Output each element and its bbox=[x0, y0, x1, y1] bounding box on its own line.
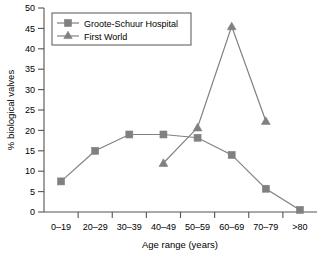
y-tick-label: 15 bbox=[25, 146, 35, 156]
x-tick-label: 40–49 bbox=[151, 222, 176, 232]
x-axis-tick-labels: 0–1920–2930–3940–4950–5960–6970–79>80 bbox=[51, 222, 308, 232]
data-point-square-marker bbox=[126, 131, 133, 138]
y-tick-label: 35 bbox=[25, 64, 35, 74]
data-point-square-marker bbox=[262, 185, 269, 192]
line-chart: 0 5 10 15 20 25 30 35 40 45 50 0–1920–29… bbox=[0, 0, 327, 253]
x-tick-label: 60–69 bbox=[219, 222, 244, 232]
legend-label-first-world: First World bbox=[84, 32, 127, 42]
data-point-square-marker bbox=[194, 134, 201, 141]
legend: Groote-Schuur Hospital First World bbox=[52, 13, 191, 45]
x-tick-label: 20–29 bbox=[83, 222, 108, 232]
series-groote-schuur-hospital bbox=[58, 131, 304, 213]
series-layer bbox=[58, 22, 304, 213]
chart-container: 0 5 10 15 20 25 30 35 40 45 50 0–1920–29… bbox=[0, 0, 327, 253]
y-tick-label: 40 bbox=[25, 44, 35, 54]
data-point-triangle-marker bbox=[193, 123, 202, 131]
x-axis-ticks bbox=[78, 212, 283, 218]
x-tick-label: >80 bbox=[292, 222, 307, 232]
data-point-square-marker bbox=[58, 178, 65, 185]
legend-label-groote-schuur-hospital: Groote-Schuur Hospital bbox=[84, 19, 178, 29]
x-axis-title: Age range (years) bbox=[142, 239, 218, 250]
data-point-square-marker bbox=[296, 206, 303, 213]
x-tick-label: 50–59 bbox=[185, 222, 210, 232]
y-axis-title: % biological valves bbox=[5, 70, 16, 151]
data-point-triangle-marker bbox=[227, 22, 236, 30]
y-tick-label: 20 bbox=[25, 126, 35, 136]
x-tick-label: 70–79 bbox=[253, 222, 278, 232]
y-axis-tick-labels: 0 5 10 15 20 25 30 35 40 45 50 bbox=[25, 3, 35, 217]
y-tick-label: 30 bbox=[25, 85, 35, 95]
legend-square-marker-icon bbox=[65, 20, 72, 27]
data-point-square-marker bbox=[92, 147, 99, 154]
y-tick-label: 5 bbox=[30, 187, 35, 197]
series-line bbox=[163, 26, 265, 163]
x-tick-label: 0–19 bbox=[51, 222, 71, 232]
y-tick-label: 10 bbox=[25, 166, 35, 176]
y-tick-label: 0 bbox=[30, 207, 35, 217]
y-axis-ticks bbox=[38, 8, 44, 212]
data-point-square-marker bbox=[160, 131, 167, 138]
y-tick-label: 25 bbox=[25, 105, 35, 115]
x-tick-label: 30–39 bbox=[117, 222, 142, 232]
y-tick-label: 45 bbox=[25, 24, 35, 34]
data-point-square-marker bbox=[228, 151, 235, 158]
y-tick-label: 50 bbox=[25, 3, 35, 13]
data-point-triangle-marker bbox=[261, 117, 270, 125]
